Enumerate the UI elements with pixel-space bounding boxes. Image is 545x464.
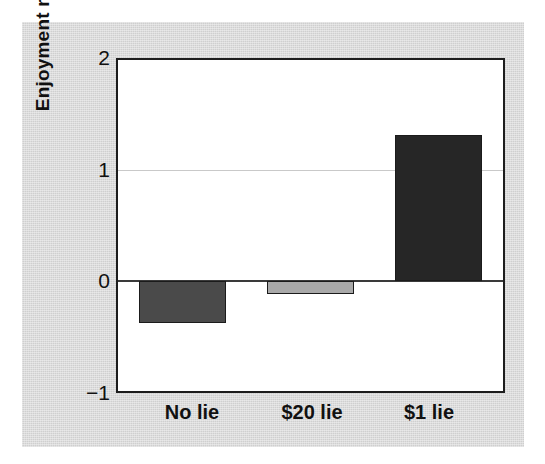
y-tick-label-2: 2 [70, 46, 110, 70]
plot-area [116, 58, 505, 393]
x-tick-label-no-lie: No lie [132, 399, 252, 425]
bar-no-lie[interactable] [139, 281, 226, 323]
bar-1-lie[interactable] [395, 135, 482, 281]
y-axis-tick-labels: 2 1 0 −1 [62, 0, 110, 464]
y-axis-title: Enjoyment rating [32, 0, 54, 142]
x-tick-label-20-lie: $20 lie [252, 399, 372, 425]
figure-root: Enjoyment rating 2 1 0 −1 No lie $20 lie… [0, 0, 545, 464]
bar-20-lie[interactable] [267, 281, 354, 294]
y-tick-label-1: 1 [70, 158, 110, 182]
y-tick-label-minus-1: −1 [70, 381, 110, 405]
x-tick-label-1-lie: $1 lie [369, 399, 489, 425]
y-tick-label-0: 0 [70, 269, 110, 293]
